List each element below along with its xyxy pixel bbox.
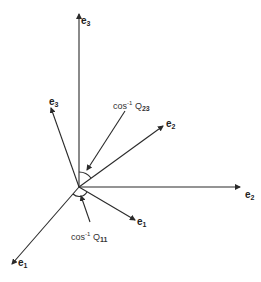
label-e3: e3	[81, 16, 90, 27]
diagram-canvas	[0, 0, 261, 282]
leader-q23	[87, 111, 125, 170]
angle-arc-q23	[79, 172, 91, 178]
rotation-diagram: e3 e2 e1 e3 e2 e1 cos-1 Q23 cos-1 Q11	[0, 0, 261, 282]
label-e3-prime: e3	[49, 97, 58, 108]
label-e2-prime: e2	[166, 119, 175, 130]
label-e2: e2	[245, 190, 254, 201]
axis-e3-prime	[51, 108, 79, 187]
annotation-cos-inv-q11: cos-1 Q11	[71, 231, 107, 243]
label-e1-prime: e1	[137, 217, 146, 228]
axis-e2-prime	[79, 126, 163, 187]
annotation-cos-inv-q23: cos-1 Q23	[113, 100, 150, 112]
leader-q11	[81, 196, 90, 222]
axis-e1	[12, 187, 79, 264]
angle-arc-q11	[73, 192, 87, 196]
label-e1: e1	[18, 258, 27, 269]
